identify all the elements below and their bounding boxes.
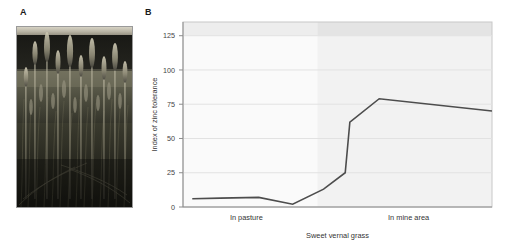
y-tick-label-100: 100 [163,66,175,75]
y-axis-title: Index of zinc tolerance [150,78,159,152]
y-tick-label-50: 50 [167,134,175,143]
grass-photograph [16,26,133,208]
x-category-label-mine-area: In mine area [388,213,430,222]
y-tick-label-25: 25 [167,168,175,177]
panel-a-label: A [20,7,27,17]
x-axis-title: Sweet vernal grass [306,231,369,240]
plot-region-pasture [183,22,317,207]
y-tick-label-125: 125 [163,31,175,40]
upper-shaded-band-left [183,22,317,36]
y-tick-label-75: 75 [167,100,175,109]
upper-shaded-band-right [317,22,492,36]
x-category-label-pasture: In pasture [230,213,263,222]
panel-a: A [0,0,140,247]
y-axis-ticks [179,36,183,207]
plot-region-mine [317,22,492,207]
zinc-tolerance-line-chart: 0 25 50 75 100 125 Index of zinc toleran… [140,0,505,247]
figure-container: A [0,0,505,247]
y-tick-label-0: 0 [171,203,175,212]
panel-b: B 0 25 50 75 100 125 [140,0,505,247]
